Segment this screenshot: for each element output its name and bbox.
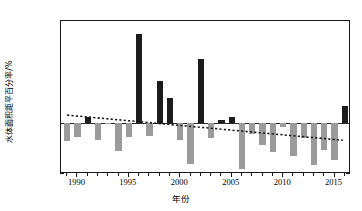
x-minor-tick-mark <box>220 173 221 176</box>
x-minor-tick-mark <box>87 173 88 176</box>
x-minor-tick-mark <box>138 173 139 176</box>
x-minor-tick-mark <box>323 173 324 176</box>
x-minor-tick-mark <box>200 173 201 176</box>
x-axis-title: 年份 <box>0 192 362 204</box>
y-tick-mark <box>346 173 350 174</box>
x-minor-tick-mark <box>251 173 252 176</box>
x-minor-tick-mark <box>66 173 67 176</box>
x-tick-label: 1995 <box>119 178 136 187</box>
x-tick-label: 1990 <box>68 178 85 187</box>
x-minor-tick-mark <box>262 173 263 176</box>
x-minor-tick-mark <box>272 173 273 176</box>
x-tick-label: 2015 <box>325 178 342 187</box>
x-tick-label: 2000 <box>171 178 188 187</box>
x-minor-tick-mark <box>303 173 304 176</box>
x-minor-tick-mark <box>190 173 191 176</box>
x-minor-tick-mark <box>97 173 98 176</box>
plot-area <box>60 20 350 173</box>
x-minor-tick-mark <box>169 173 170 176</box>
x-minor-tick-mark <box>313 173 314 176</box>
trend-line-segment <box>67 115 343 140</box>
x-minor-tick-mark <box>107 173 108 176</box>
chart-figure: −40−20020406080 199019952000200520102015… <box>0 0 362 211</box>
x-minor-tick-mark <box>241 173 242 176</box>
y-tick-mark <box>60 173 64 174</box>
x-tick-label: 2010 <box>274 178 291 187</box>
x-minor-tick-mark <box>344 173 345 176</box>
x-tick-label: 2005 <box>222 178 239 187</box>
x-minor-tick-mark <box>292 173 293 176</box>
x-minor-tick-mark <box>118 173 119 176</box>
x-minor-tick-mark <box>148 173 149 176</box>
y-axis-title: 水体面积距平百分率/% <box>3 37 14 167</box>
x-minor-tick-mark <box>210 173 211 176</box>
x-minor-tick-mark <box>159 173 160 176</box>
trend-line <box>61 21 349 172</box>
